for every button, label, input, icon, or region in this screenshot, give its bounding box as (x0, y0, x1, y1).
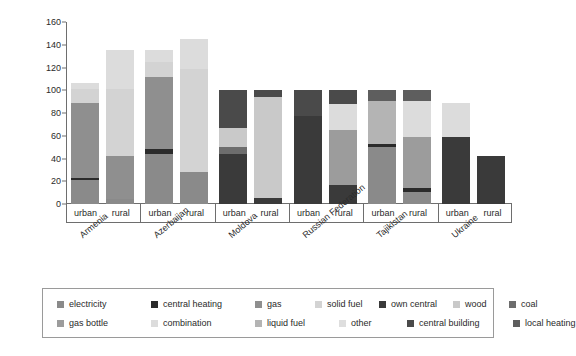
bar-stack (329, 22, 357, 204)
bar-segment (106, 50, 134, 89)
y-tick-mark (62, 135, 66, 136)
bar-segment (254, 90, 282, 97)
y-tick-label: 20 (51, 177, 61, 186)
legend-item[interactable]: wood (453, 296, 487, 312)
subcategory-divider (289, 204, 290, 223)
legend-item[interactable]: local heating (513, 315, 576, 331)
bar-stack (254, 22, 282, 204)
bar-segment (368, 144, 396, 147)
subcategory-divider (363, 204, 364, 223)
bar-segment (145, 50, 173, 61)
subcategory-divider (140, 204, 141, 223)
bar-segment (219, 90, 247, 128)
legend-swatch-icon (151, 301, 158, 308)
legend-item[interactable]: own central (379, 296, 437, 312)
legend-item[interactable]: central building (407, 315, 480, 331)
bar-stack (180, 22, 208, 204)
bar-segment (71, 89, 99, 103)
y-tick-label: 160 (46, 18, 61, 27)
subcategory-label: rural (475, 204, 510, 223)
y-tick-label: 80 (51, 109, 61, 118)
y-tick-label: 60 (51, 131, 61, 140)
legend-item[interactable]: solid fuel (315, 296, 363, 312)
bar-stack (294, 22, 322, 204)
legend-label: solid fuel (327, 300, 363, 309)
bar-segment (219, 128, 247, 147)
legend-item[interactable]: coal (509, 296, 538, 312)
legend-label: gas (267, 300, 282, 309)
legend-row-2: gas bottlecombinationliquid fuelothercen… (43, 315, 493, 331)
y-tick-label: 40 (51, 154, 61, 163)
y-tick-label: 140 (46, 40, 61, 49)
bar-segment (180, 39, 208, 69)
bar-segment (403, 137, 431, 188)
legend-label: gas bottle (69, 319, 108, 328)
legend-item[interactable]: gas (255, 296, 282, 312)
bar-segment (71, 83, 99, 89)
subcategory-label: rural (103, 204, 138, 223)
legend-label: wood (465, 300, 487, 309)
legend-item[interactable]: liquid fuel (255, 315, 305, 331)
bar-segment (403, 90, 431, 100)
bar-segment (106, 89, 134, 156)
y-tick-mark (62, 113, 66, 114)
y-tick-mark (62, 67, 66, 68)
bar-stack (71, 22, 99, 204)
legend-row-1: electricitycentral heatinggassolid fuelo… (43, 296, 493, 312)
bar-segment (219, 154, 247, 204)
plot-area: 020406080100120140160 (66, 22, 512, 204)
bar-segment (403, 188, 431, 191)
bar-segment (219, 147, 247, 154)
legend-item[interactable]: electricity (57, 296, 107, 312)
subcategory-row-underline (66, 222, 512, 223)
bar-segment (180, 69, 208, 173)
legend-swatch-icon (315, 301, 322, 308)
y-tick-label: 120 (46, 63, 61, 72)
bar-stack (477, 22, 505, 204)
y-tick-mark (62, 44, 66, 45)
y-tick-label: 100 (46, 86, 61, 95)
bar-segment (145, 62, 173, 77)
bar-segment (329, 130, 357, 185)
bar-stack (368, 22, 396, 204)
legend-swatch-icon (57, 301, 64, 308)
bar-segment (71, 103, 99, 178)
legend-swatch-icon (151, 320, 158, 327)
bar-segment (329, 90, 357, 104)
bar-segment (403, 192, 431, 205)
bar-segment (294, 90, 322, 116)
bar-stack (442, 22, 470, 204)
legend-label: liquid fuel (267, 319, 305, 328)
legend-item[interactable]: combination (151, 315, 212, 331)
legend-label: central building (419, 319, 480, 328)
legend-label: other (351, 319, 372, 328)
legend-label: electricity (69, 300, 107, 309)
y-tick-mark (62, 22, 66, 23)
legend-item[interactable]: central heating (151, 296, 222, 312)
bar-segment (106, 156, 134, 199)
bar-segment (145, 77, 173, 150)
legend-label: central heating (163, 300, 222, 309)
legend-item[interactable]: gas bottle (57, 315, 108, 331)
bar-segment (442, 103, 470, 137)
legend-item[interactable]: other (339, 315, 372, 331)
subcategory-divider (511, 204, 512, 223)
chart-legend: electricitycentral heatinggassolid fuelo… (42, 288, 494, 338)
bar-segment (145, 149, 173, 154)
legend-swatch-icon (255, 320, 262, 327)
legend-swatch-icon (57, 320, 64, 327)
bar-stack (403, 22, 431, 204)
y-tick-mark (62, 158, 66, 159)
bar-segment (145, 154, 173, 204)
y-tick-mark (62, 181, 66, 182)
legend-swatch-icon (513, 320, 520, 327)
legend-label: local heating (525, 319, 576, 328)
y-tick-mark (62, 90, 66, 91)
bar-segment (294, 116, 322, 204)
legend-swatch-icon (509, 301, 516, 308)
subcategory-label-row: urbanruralurbanruralurbanruralurbanrural… (66, 204, 512, 223)
bar-segment (368, 101, 396, 144)
bar-segment (403, 101, 431, 137)
subcategory-divider (438, 204, 439, 223)
